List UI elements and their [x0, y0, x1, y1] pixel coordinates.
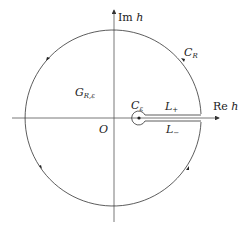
region-label: GR,ε — [75, 87, 95, 100]
keyhole-contour-diagram: Im h CR GR,ε Cε L+ Re h O L− — [0, 0, 247, 232]
l-minus-label: L− — [166, 124, 179, 137]
re-axis-label: Re h — [213, 101, 238, 112]
diagram-canvas — [0, 0, 247, 232]
branch-point — [137, 116, 140, 119]
arc-cr-label: CR — [184, 47, 198, 60]
small-circle-label: Cε — [131, 100, 143, 113]
origin-label: O — [99, 124, 108, 135]
im-axis-label: Im h — [118, 12, 143, 23]
l-plus-label: L+ — [165, 101, 178, 114]
